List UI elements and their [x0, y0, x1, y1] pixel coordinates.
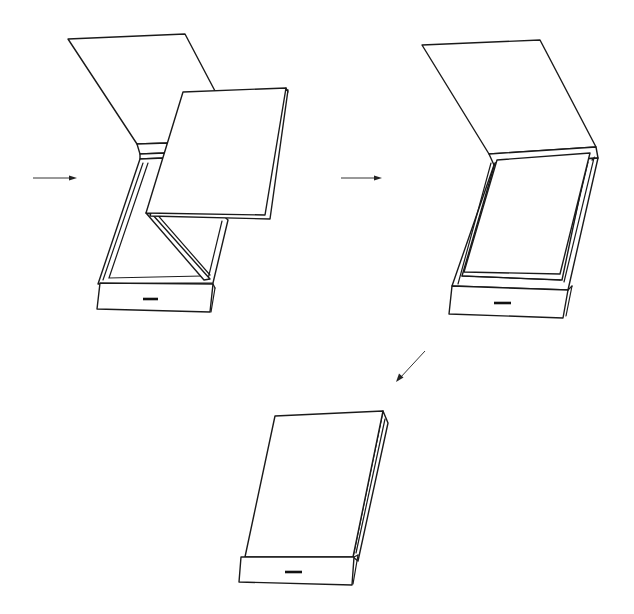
step-3-figure	[239, 411, 388, 585]
folding-box-diagram: Folding box assembly sequence	[0, 0, 634, 614]
step-2-figure	[422, 40, 598, 318]
drawer-strip	[97, 283, 213, 312]
arrowhead-icon	[69, 176, 77, 181]
step-1-figure	[68, 34, 288, 312]
arrow-to-step-1	[33, 176, 77, 181]
arrow-to-step-2	[341, 176, 382, 181]
lid-flap	[422, 40, 596, 154]
arrow-shaft	[400, 351, 425, 378]
arrowhead-icon	[374, 176, 382, 181]
arrow-to-step-3	[396, 351, 425, 382]
diagram-canvas	[0, 0, 634, 614]
hinge-strip	[137, 143, 168, 154]
